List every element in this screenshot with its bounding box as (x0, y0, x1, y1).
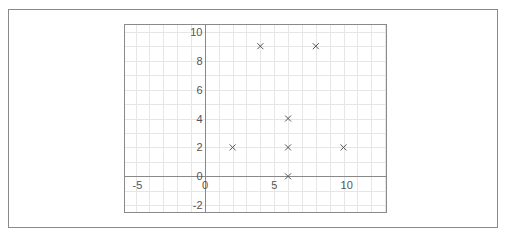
x-tick-label: -5 (133, 179, 143, 191)
y-tick-label: 6 (196, 84, 202, 96)
tick-labels: -50510-20246810 (133, 26, 353, 212)
x-tick-label: 10 (341, 179, 353, 191)
y-tick-label: 4 (196, 113, 202, 125)
y-tick-label: 2 (196, 141, 202, 153)
y-tick-label: -2 (193, 199, 203, 211)
x-tick-label: 0 (202, 179, 208, 191)
scatter-plot: -50510-20246810 (0, 0, 511, 239)
x-tick-label: 5 (271, 179, 277, 191)
y-tick-label: 8 (196, 55, 202, 67)
y-tick-label: 10 (190, 26, 202, 38)
y-tick-label: 0 (196, 170, 202, 182)
